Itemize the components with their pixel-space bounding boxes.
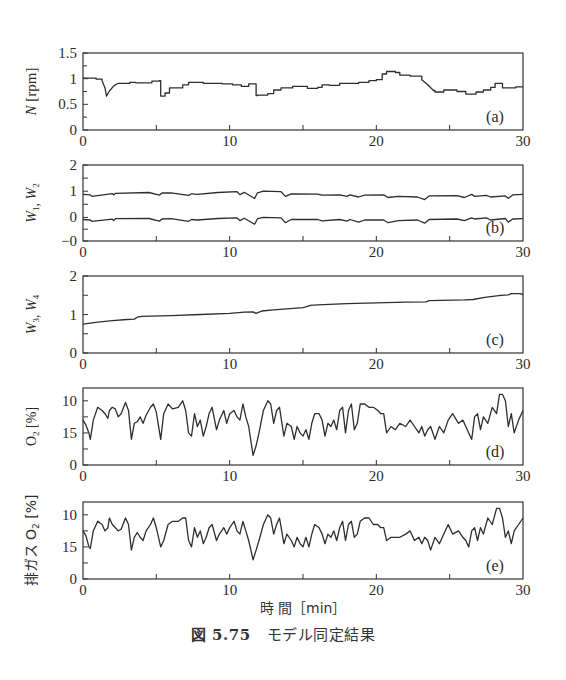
x-tick-label: 10 [222, 356, 237, 372]
y-tick-label: −0 [61, 233, 77, 249]
y-tick-label: 0 [70, 571, 78, 587]
plot-frame [83, 388, 523, 465]
panel-tag: (b) [486, 219, 505, 237]
y-tick-label: 0 [70, 345, 78, 361]
panel-d: 010203001510O2 [%](d) [24, 388, 531, 484]
x-tick-label: 30 [516, 133, 531, 149]
x-tick-label: 20 [369, 356, 384, 372]
figure-caption-text: モデル同定結果 [267, 626, 376, 644]
x-tick-label: 10 [222, 582, 237, 598]
panel-a: 010203000.511.5N [rpm](a) [23, 45, 531, 149]
y-tick-label: 0 [70, 209, 78, 225]
y-tick-label: 1 [70, 71, 78, 87]
x-tick-label: 0 [79, 582, 87, 598]
x-tick-label: 0 [79, 468, 87, 484]
y-tick-label: 2 [70, 157, 78, 173]
y-axis-label: W1, W2 [24, 183, 42, 222]
x-tick-label: 20 [369, 244, 384, 260]
panel-tag: (a) [486, 108, 504, 126]
plot-frame [83, 165, 523, 241]
series-line [83, 72, 523, 97]
x-tick-label: 30 [516, 582, 531, 598]
x-tick-label: 10 [222, 133, 237, 149]
series-line [83, 508, 523, 559]
y-axis-label: N [rpm] [23, 68, 39, 117]
panel-b: 0102030−0012W1, W2(b) [24, 157, 531, 260]
panel-tag: (c) [486, 331, 504, 349]
x-tick-label: 30 [516, 244, 531, 260]
y-tick-label: 0 [70, 122, 78, 138]
x-tick-label: 20 [369, 582, 384, 598]
x-tick-label: 20 [369, 133, 384, 149]
figure-number: 図 5.75 [191, 626, 251, 644]
y-axis-label: O2 [%] [24, 407, 41, 446]
y-tick-label: 10 [62, 393, 77, 409]
x-axis-label: 時 間［min］ [0, 597, 566, 617]
panel-tag: (e) [486, 557, 504, 575]
x-tick-label: 0 [79, 244, 87, 260]
y-tick-label: 10 [62, 507, 77, 523]
y-tick-label: 1 [70, 307, 78, 323]
y-tick-label: 2 [70, 268, 78, 284]
figure-caption: 図 5.75モデル同定結果 [0, 623, 566, 644]
y-tick-label: 1 [70, 183, 78, 199]
panel-tag: (d) [486, 443, 505, 461]
panel-c: 0102030012W3, W4(c) [24, 268, 531, 372]
y-axis-label: W3, W4 [24, 294, 42, 334]
figure: 010203000.511.5N [rpm](a)0102030−0012W1,… [0, 0, 566, 680]
x-tick-label: 10 [222, 468, 237, 484]
x-tick-label: 30 [516, 356, 531, 372]
series-line [83, 217, 523, 224]
plot-frame [83, 276, 523, 353]
series-line [83, 294, 523, 324]
y-tick-label: 1.5 [58, 45, 77, 61]
x-tick-label: 0 [79, 133, 87, 149]
series-line [83, 394, 523, 455]
x-tick-label: 20 [369, 468, 384, 484]
series-line [83, 191, 523, 199]
x-tick-label: 0 [79, 356, 87, 372]
y-tick-label: 15 [62, 539, 77, 555]
y-tick-label: 0 [70, 457, 78, 473]
y-tick-label: 15 [62, 425, 77, 441]
plot-frame [83, 502, 523, 579]
y-tick-label: 0.5 [58, 96, 77, 112]
plots-area: 010203000.511.5N [rpm](a)0102030−0012W1,… [0, 0, 566, 680]
y-axis-label: 排ガス O2 [%] [23, 495, 41, 587]
panel-e: 010203001510排ガス O2 [%](e) [23, 495, 531, 598]
x-tick-label: 10 [222, 244, 237, 260]
x-tick-label: 30 [516, 468, 531, 484]
